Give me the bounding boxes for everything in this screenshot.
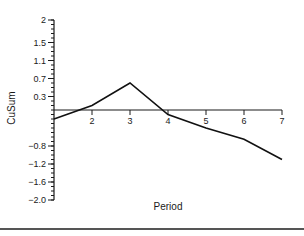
x-tick-label: 5: [203, 116, 208, 126]
cusum-chart: 21.51.10.70.3−0.8−1.2−1.6−2.0 234567 CuS…: [0, 0, 304, 236]
y-tick-label: 1.1: [33, 56, 46, 66]
y-tick-label: −1.6: [28, 177, 46, 187]
x-tick-label: 4: [165, 116, 170, 126]
y-tick-label: 1.5: [33, 38, 46, 48]
y-tick-label: −2.0: [28, 195, 46, 205]
y-tick-label: 2: [41, 15, 46, 25]
x-axis-title: Period: [154, 201, 183, 212]
y-tick-label: −0.8: [28, 141, 46, 151]
x-axis: 234567: [54, 110, 285, 126]
bottom-divider: [0, 228, 304, 230]
y-axis-title: CuSum: [6, 91, 17, 124]
y-tick-label: 0.7: [33, 74, 46, 84]
y-axis: 21.51.10.70.3−0.8−1.2−1.6−2.0: [28, 15, 54, 205]
x-tick-label: 7: [279, 116, 284, 126]
x-tick-label: 3: [127, 116, 132, 126]
y-tick-label: −1.2: [28, 159, 46, 169]
y-tick-label: 0.3: [33, 92, 46, 102]
x-tick-label: 6: [241, 116, 246, 126]
x-tick-label: 2: [89, 116, 94, 126]
